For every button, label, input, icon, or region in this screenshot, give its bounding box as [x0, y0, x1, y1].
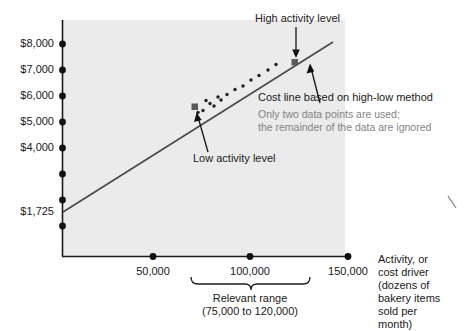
low-activity-marker: [192, 104, 199, 111]
relevant-range-line2: (75,000 to 120,000): [150, 305, 350, 318]
x-tick-label-150000: 150,000: [308, 265, 388, 278]
corner-tick-mark: [448, 196, 456, 208]
cost-line-note-line1: Only two data points are used;: [258, 108, 400, 121]
y-intercept-label: $1,725: [0, 205, 54, 218]
y-tick-label-4000: $4,000: [0, 141, 54, 154]
high-activity-level-label: High activity level: [255, 12, 340, 25]
high-activity-arrow: [292, 27, 300, 58]
x-tick-label-50000: 50,000: [113, 265, 193, 278]
x-axis-caption-line3: (dozens of: [378, 279, 458, 292]
cost-line-note-line2: the remainder of the data are ignored: [258, 121, 431, 134]
x-axis-caption-line5: sold per: [378, 305, 458, 318]
low-activity-arrow: [194, 113, 208, 153]
high-activity-marker: [292, 59, 299, 66]
x-axis-caption-line2: cost driver: [378, 266, 458, 279]
scatter-points: [196, 63, 277, 114]
x-axis-caption-line1: Activity, or: [378, 253, 458, 266]
y-tick-label-5000: $5,000: [0, 115, 54, 128]
x-axis-caption-line4: bakery items: [378, 292, 458, 305]
x-axis-caption-line6: month): [378, 318, 458, 331]
relevant-range-line1: Relevant range: [150, 292, 350, 305]
x-tick-label-100000: 100,000: [210, 265, 290, 278]
y-tick-label-8000: $8,000: [0, 37, 54, 50]
y-tick-label-6000: $6,000: [0, 89, 54, 102]
relevant-range-bracket: [191, 277, 310, 290]
y-tick-label-7000: $7,000: [0, 63, 54, 76]
low-activity-level-label: Low activity level: [193, 152, 276, 165]
cost-line-callout-label: Cost line based on high-low method: [258, 91, 433, 104]
